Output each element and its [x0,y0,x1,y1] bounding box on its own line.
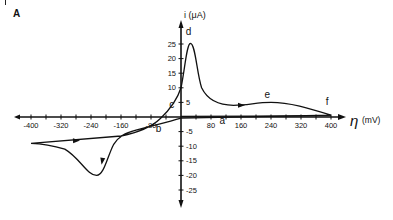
y-tick-label: 25 [168,40,176,49]
y-tick-label: 5 [186,98,190,107]
y-tick-label: -5 [186,127,193,136]
point-label-d: d [186,26,192,37]
x-axis-right-arrow-icon [338,114,346,120]
x-tick-label: 160 [235,121,248,130]
point-label-b: b [156,123,162,134]
x-axis-symbol: η [350,112,358,129]
x-tick-label: -400 [23,121,38,130]
y-tick-label: 10 [168,83,176,92]
y-axis-label: i (μA) [184,10,206,20]
y-tick-label: -20 [186,171,197,180]
cv-return-trace [181,116,331,117]
point-label-c: c [169,99,174,110]
x-axis-unit: (mV) [362,115,381,125]
axes [14,20,346,208]
y-tick-label: -25 [186,186,197,195]
cyclic-voltammogram-chart: -400-320-240-160-80801602403204005101520… [0,0,393,220]
x-tick-label: -240 [83,121,98,130]
x-tick-label: 400 [325,121,338,130]
x-tick-label: 240 [265,121,278,130]
x-axis-left-arrow-icon [14,115,20,120]
y-tick-label: -10 [186,142,197,151]
y-tick-label: 20 [168,54,176,63]
y-tick-label: -15 [186,156,197,165]
y-axis-down-arrow-icon [179,200,184,208]
y-axis-up-arrow-icon [179,20,184,28]
point-label-a: a [219,115,225,126]
x-tick-label: -320 [53,121,68,130]
direction-arrow-icon [238,103,245,108]
x-tick-label: -160 [113,121,128,130]
direction-arrow-icon [73,138,80,143]
direction-arrow-icon [99,157,105,165]
point-label-e: e [264,89,270,100]
point-label-f: f [326,96,329,107]
y-tick-label: 15 [168,69,176,78]
x-tick-label: 320 [295,121,308,130]
x-tick-label: 80 [207,121,215,130]
labels: -400-320-240-160-80801602403204005101520… [23,10,380,195]
